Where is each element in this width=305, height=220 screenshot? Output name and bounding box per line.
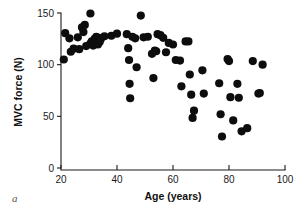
data-point — [133, 63, 141, 71]
data-point — [113, 30, 121, 38]
data-point — [149, 74, 157, 82]
data-point — [186, 70, 194, 78]
data-point — [184, 37, 192, 45]
data-point — [249, 57, 257, 65]
x-tick-label: 40 — [111, 174, 123, 185]
scatter-plot-figure: 050100150 20406080100 Age (years) MVC fo… — [0, 0, 305, 220]
data-point — [60, 55, 68, 63]
data-point — [169, 40, 177, 48]
data-point — [176, 56, 184, 64]
data-point — [259, 61, 267, 69]
data-point — [125, 56, 133, 64]
plot-canvas: 050100150 20406080100 Age (years) MVC fo… — [0, 0, 305, 220]
y-tick-label: 0 — [48, 163, 54, 174]
data-point — [229, 116, 237, 124]
data-point — [177, 82, 185, 90]
data-point — [233, 80, 241, 88]
data-point — [152, 47, 160, 55]
y-tick-label: 100 — [37, 59, 54, 70]
x-tick-label: 100 — [277, 174, 294, 185]
data-point — [137, 11, 145, 19]
data-point — [79, 28, 87, 36]
panel-label: a — [12, 192, 18, 204]
data-point — [86, 9, 94, 17]
x-tick-label: 20 — [55, 174, 67, 185]
data-point — [235, 94, 243, 102]
data-point — [144, 33, 152, 41]
x-tick-label: 80 — [223, 174, 235, 185]
data-point — [126, 80, 134, 88]
data-point — [65, 34, 73, 42]
data-point — [126, 94, 134, 102]
data-point — [162, 48, 170, 56]
data-point — [187, 91, 195, 99]
data-point — [75, 45, 83, 53]
data-point — [218, 132, 226, 140]
data-point — [217, 110, 225, 118]
data-point — [225, 57, 233, 65]
data-point — [190, 107, 198, 115]
x-tick-label: 60 — [167, 174, 179, 185]
data-point — [200, 90, 208, 98]
data-point — [256, 89, 264, 97]
data-point — [124, 44, 132, 52]
data-point — [81, 21, 89, 29]
data-point — [131, 34, 139, 42]
data-point — [100, 32, 108, 40]
data-point — [215, 79, 223, 87]
y-tick-label: 150 — [37, 8, 54, 19]
y-tick-label: 50 — [43, 111, 55, 122]
data-point — [198, 66, 206, 74]
x-axis-title: Age (years) — [144, 190, 201, 202]
data-point — [226, 93, 234, 101]
y-axis-title: MVC force (N) — [12, 57, 24, 126]
data-point — [189, 114, 197, 122]
data-point — [243, 124, 251, 132]
